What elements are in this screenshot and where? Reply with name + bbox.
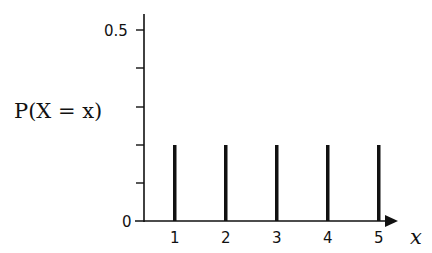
y-tick-label-top: 0.5	[104, 22, 128, 40]
probability-distribution-chart: 0.5 0 P(X = x) 1 2 3 4 5 x	[0, 0, 432, 253]
bar-4	[326, 145, 330, 221]
x-tick-label-5: 5	[374, 229, 384, 247]
bar-3	[275, 145, 279, 221]
bars	[173, 145, 381, 221]
x-axis-arrow-icon	[385, 215, 398, 227]
bar-5	[377, 145, 381, 221]
y-tick-label-zero: 0	[122, 213, 132, 231]
x-tick-label-1: 1	[170, 229, 180, 247]
bar-2	[224, 145, 228, 221]
bar-1	[173, 145, 177, 221]
y-axis-label: P(X = x)	[14, 99, 102, 123]
x-tick-label-3: 3	[272, 229, 282, 247]
x-tick-label-2: 2	[221, 229, 231, 247]
x-tick-label-4: 4	[323, 229, 333, 247]
y-ticks	[136, 30, 144, 183]
x-axis-label: x	[410, 225, 422, 249]
